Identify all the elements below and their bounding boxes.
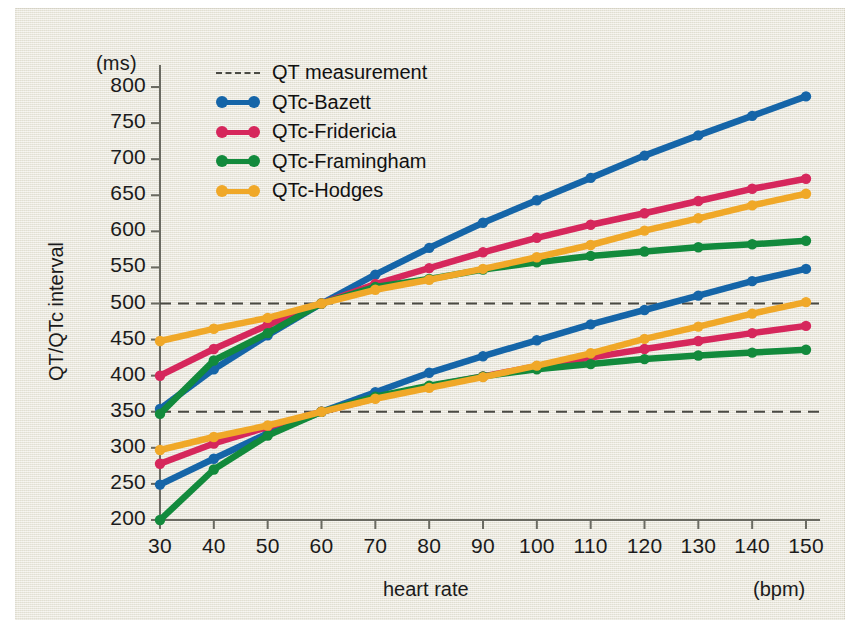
data-point	[639, 208, 649, 218]
legend-item: QTc-Framingham	[216, 150, 426, 173]
data-point	[639, 334, 649, 344]
data-point	[747, 308, 757, 318]
data-point	[424, 383, 434, 393]
y-tick-label: 500	[88, 290, 146, 314]
data-point	[478, 351, 488, 361]
data-point	[155, 459, 165, 469]
data-point	[693, 130, 703, 140]
legend-swatch-icon	[216, 66, 260, 80]
data-point	[801, 91, 811, 101]
data-point	[424, 368, 434, 378]
x-axis-title: heart rate	[383, 578, 469, 601]
legend-label: QTc-Hodges	[272, 179, 383, 202]
data-point	[155, 371, 165, 381]
data-point	[639, 344, 649, 354]
legend-label: QTc-Fridericia	[272, 120, 396, 143]
data-point	[693, 321, 703, 331]
legend-swatch-icon	[216, 95, 260, 109]
y-tick-label: 450	[88, 326, 146, 350]
data-point	[532, 195, 542, 205]
x-tick-label: 90	[453, 534, 513, 558]
data-point	[801, 236, 811, 246]
data-point	[801, 345, 811, 355]
series-qtc-framingham	[155, 236, 811, 420]
data-point	[370, 394, 380, 404]
data-point	[586, 220, 596, 230]
x-tick-label: 100	[507, 534, 567, 558]
data-point	[155, 445, 165, 455]
data-point	[747, 276, 757, 286]
data-point	[370, 285, 380, 295]
x-tick-label: 150	[776, 534, 836, 558]
data-point	[639, 246, 649, 256]
data-point	[586, 359, 596, 369]
x-tick-label: 70	[345, 534, 405, 558]
data-point	[209, 324, 219, 334]
y-tick-label: 800	[88, 73, 146, 97]
data-point	[747, 347, 757, 357]
data-point	[370, 269, 380, 279]
x-tick-label: 40	[184, 534, 244, 558]
data-point	[209, 344, 219, 354]
data-point	[747, 328, 757, 338]
data-point	[693, 350, 703, 360]
series-qtc-framingham	[155, 345, 811, 526]
legend-label: QT measurement	[272, 61, 427, 84]
data-point	[316, 407, 326, 417]
legend-item: QT measurement	[216, 61, 427, 84]
data-point	[155, 515, 165, 525]
y-axis-title: QT/QTc interval	[45, 212, 68, 412]
data-point	[209, 432, 219, 442]
data-point	[801, 174, 811, 184]
y-tick-label: 650	[88, 181, 146, 205]
x-tick-label: 80	[399, 534, 459, 558]
series-qtc-fridericia	[155, 174, 811, 381]
x-tick-label: 140	[722, 534, 782, 558]
y-tick-label: 400	[88, 362, 146, 386]
data-point	[532, 360, 542, 370]
data-point	[586, 173, 596, 183]
data-point	[747, 239, 757, 249]
data-point	[478, 372, 488, 382]
y-tick-label: 700	[88, 145, 146, 169]
data-point	[263, 420, 273, 430]
data-point	[478, 247, 488, 257]
y-tick-label: 200	[88, 506, 146, 530]
data-point	[478, 264, 488, 274]
y-tick-label: 550	[88, 253, 146, 277]
y-tick-label: 350	[88, 398, 146, 422]
legend-label: QTc-Bazett	[272, 91, 371, 114]
data-point	[155, 479, 165, 489]
y-axis-unit-label: (ms)	[96, 52, 137, 75]
data-point	[424, 243, 434, 253]
data-point	[747, 184, 757, 194]
y-tick-label: 750	[88, 109, 146, 133]
data-point	[532, 233, 542, 243]
data-point	[424, 275, 434, 285]
y-tick-label: 300	[88, 434, 146, 458]
data-point	[693, 290, 703, 300]
data-point	[639, 305, 649, 315]
data-point	[801, 264, 811, 274]
data-point	[155, 336, 165, 346]
figure-canvas: (ms) QT/QTc interval heart rate (bpm) 20…	[0, 0, 866, 628]
data-point	[263, 328, 273, 338]
data-point	[263, 313, 273, 323]
data-point	[747, 111, 757, 121]
legend-swatch-icon	[216, 125, 260, 139]
x-tick-label: 120	[615, 534, 675, 558]
data-point	[747, 200, 757, 210]
data-point	[693, 336, 703, 346]
data-point	[263, 430, 273, 440]
legend-swatch-icon	[216, 184, 260, 198]
data-point	[155, 409, 165, 419]
x-axis-unit-label: (bpm)	[753, 578, 805, 601]
data-point	[586, 348, 596, 358]
legend-swatch-icon	[216, 154, 260, 168]
y-tick-label: 600	[88, 217, 146, 241]
data-point	[801, 321, 811, 331]
legend-label: QTc-Framingham	[272, 150, 426, 173]
x-tick-label: 130	[668, 534, 728, 558]
data-point	[209, 454, 219, 464]
data-point	[639, 150, 649, 160]
